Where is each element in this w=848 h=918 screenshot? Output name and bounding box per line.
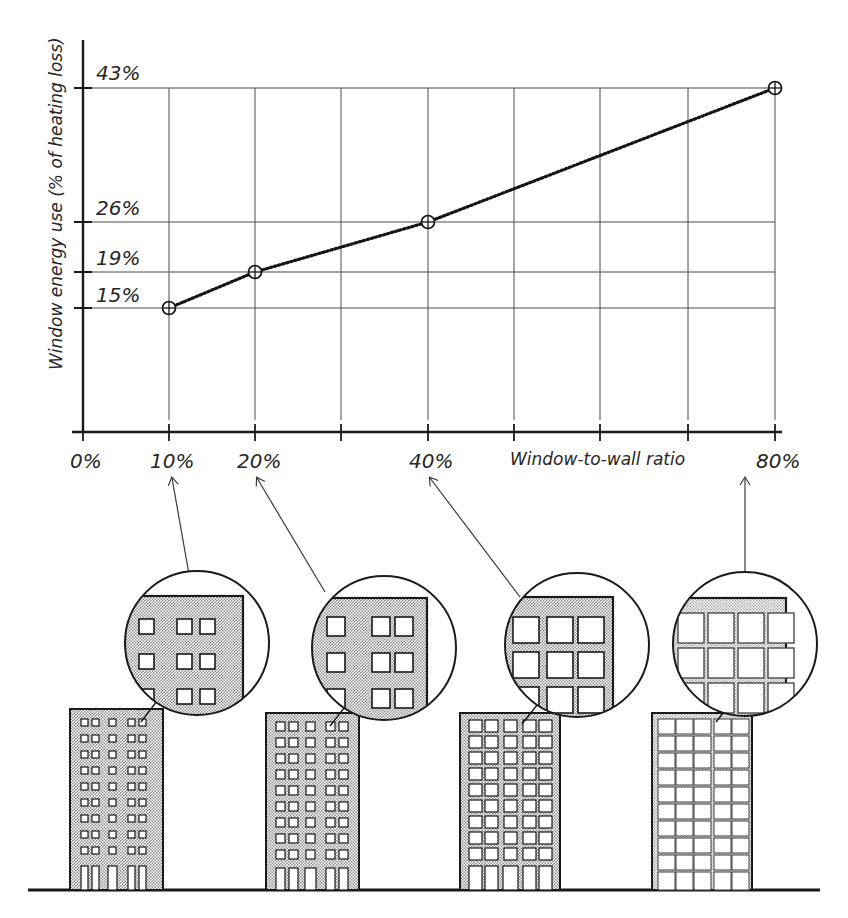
- building-80-window-row: [658, 804, 749, 819]
- building-20-percent[interactable]: [266, 713, 359, 890]
- building-40-percent[interactable]: [460, 713, 560, 890]
- building-40-entrance-row: [469, 866, 552, 890]
- building-80-window-row: [658, 838, 749, 853]
- building-40-window-row: [469, 832, 552, 844]
- building-40-window-row: [469, 848, 552, 860]
- building-40-window-row: [469, 736, 552, 748]
- building-40-window-row: [469, 752, 552, 764]
- building-40-window-row: [469, 784, 552, 796]
- building-80-window-row: [658, 855, 749, 870]
- building-40-window-row: [469, 816, 552, 828]
- buildings-layer: [0, 0, 848, 918]
- figure-canvas: 43% 26% 19% 15% Window energy use (% of …: [0, 0, 848, 918]
- building-80-window-row: [658, 770, 749, 785]
- building-40-window-row: [469, 800, 552, 812]
- building-80-window-row: [658, 753, 749, 768]
- building-80-entrance-row: [658, 872, 749, 890]
- building-40-window-row: [469, 720, 552, 732]
- building-80-window-row: [658, 736, 749, 751]
- building-80-window-row: [658, 719, 749, 734]
- building-80-window-row: [658, 787, 749, 802]
- building-80-window-row: [658, 821, 749, 836]
- building-10-percent[interactable]: [70, 709, 163, 890]
- building-40-window-row: [469, 768, 552, 780]
- building-80-percent[interactable]: [652, 713, 752, 890]
